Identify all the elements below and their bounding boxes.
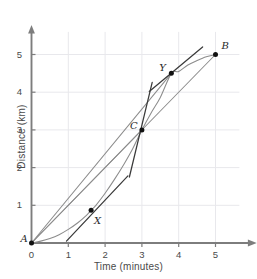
data-point-B — [213, 52, 218, 57]
x-tick-label-3: 3 — [134, 249, 150, 260]
x-tick-label-5: 5 — [208, 249, 224, 260]
tangent-at-X — [66, 176, 127, 241]
x-axis-title: Time (minutes) — [0, 261, 257, 272]
data-point-C — [139, 127, 144, 132]
tangent-at-Y — [149, 47, 202, 91]
x-tick-label-0: 0 — [24, 249, 40, 260]
point-label-A: A — [21, 233, 28, 244]
x-tick-label-1: 1 — [60, 249, 76, 260]
point-label-B: B — [222, 40, 229, 51]
series-layer — [32, 47, 216, 243]
point-label-C: C — [130, 120, 138, 131]
x-axis-arrowhead — [248, 240, 257, 247]
point-label-X: X — [94, 215, 101, 226]
y-axis-title: Distance (km) — [16, 67, 27, 207]
chord-C-to-Y — [32, 73, 172, 243]
data-point-Y — [169, 71, 174, 76]
data-point-X — [89, 208, 94, 213]
plot-area — [0, 0, 257, 279]
y-axis-arrowhead — [28, 25, 35, 33]
distance-time-chart: 01234512345 AXCYB Time (minutes) Distanc… — [0, 0, 257, 279]
axis-lines — [28, 25, 257, 246]
chord-A-to-C — [32, 130, 142, 243]
point-label-Y: Y — [159, 62, 166, 73]
y-tick-label-5: 5 — [12, 49, 28, 60]
x-tick-label-2: 2 — [97, 249, 113, 260]
data-point-A — [29, 241, 34, 246]
x-tick-label-4: 4 — [171, 249, 187, 260]
